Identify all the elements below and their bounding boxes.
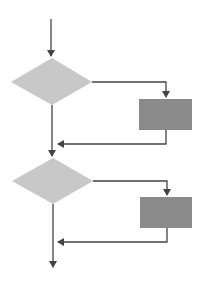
decision-diamond-2 bbox=[12, 158, 93, 204]
process-box-2 bbox=[140, 197, 192, 228]
branch-connector-1 bbox=[92, 82, 166, 97]
return-connector-2 bbox=[58, 228, 167, 242]
process-box-1 bbox=[139, 99, 192, 130]
decision-diamond-1 bbox=[11, 58, 92, 105]
return-connector-1 bbox=[58, 130, 166, 144]
flowchart-diagram bbox=[0, 0, 205, 285]
branch-connector-2 bbox=[93, 181, 167, 195]
